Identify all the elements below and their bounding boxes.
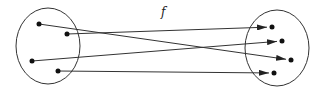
set-point [30, 59, 35, 64]
mapping-arrow [67, 27, 267, 34]
set-point [272, 71, 277, 76]
function-label: f [160, 5, 168, 19]
codomain-set-ellipse [245, 10, 309, 86]
set-point [289, 58, 294, 63]
set-point [56, 69, 61, 74]
set-point [65, 32, 70, 37]
mapping-arrow [32, 41, 277, 61]
function-mapping-diagram: f [0, 0, 322, 91]
set-point [37, 22, 42, 27]
domain-set-ellipse [16, 8, 80, 84]
set-point [270, 25, 275, 30]
set-points [30, 22, 294, 76]
set-point [280, 39, 285, 44]
mapping-arrow [58, 71, 269, 73]
